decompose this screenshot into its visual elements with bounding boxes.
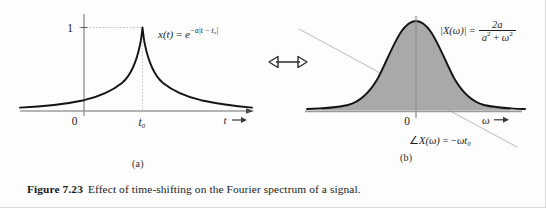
figure-caption-text: Effect of time-shifting on the Fourier s… bbox=[88, 183, 361, 195]
panel-b-x-axis-label: ω bbox=[482, 114, 490, 126]
panel-a-plot: 1 0 t₀ t bbox=[20, 14, 254, 128]
panel-b-origin-label: 0 bbox=[404, 115, 410, 127]
panel-a-origin-label: 0 bbox=[72, 115, 78, 127]
panel-b-denominator-a-exp: 2 bbox=[487, 30, 491, 38]
panel-b-phase-lhs: X(ω) bbox=[419, 135, 440, 146]
panel-b-denominator-omega-exp: 2 bbox=[509, 30, 513, 38]
panel-a-equation: x(t) = e−a|t − t₀| bbox=[158, 27, 218, 40]
figure-caption: Figure 7.23Effect of time-shifting on th… bbox=[27, 183, 361, 195]
panel-b-magnitude-fraction: 2a a2 + ω2 bbox=[479, 19, 516, 43]
panel-a-equation-equals: = bbox=[176, 28, 182, 40]
panel-b-label: (b) bbox=[400, 152, 412, 163]
panel-b-phase-equation: ∠X(ω) = −ωt₀ bbox=[409, 135, 471, 146]
figure-number: Figure 7.23 bbox=[27, 183, 83, 195]
panel-a-peak-label: t₀ bbox=[138, 116, 145, 128]
angle-icon: ∠ bbox=[409, 135, 419, 146]
panel-b-magnitude-denominator: a2 + ω2 bbox=[479, 30, 516, 43]
panel-a-x-label-arrowhead bbox=[241, 117, 247, 123]
panel-a-y-tick-label: 1 bbox=[67, 22, 73, 34]
panel-b-magnitude-equation: |X(ω)| = 2a a2 + ω2 bbox=[440, 20, 517, 44]
panel-b-magnitude-lhs: |X(ω)| bbox=[440, 25, 467, 36]
panel-a-x-axis-arrowhead bbox=[246, 108, 254, 114]
panel-a-equation-exponent: −a|t − t₀| bbox=[190, 26, 218, 35]
panel-b-magnitude-numerator: 2a bbox=[479, 19, 516, 30]
panel-b-denominator-plus: + bbox=[493, 32, 499, 43]
panel-a-equation-lhs: x(t) bbox=[158, 28, 173, 40]
panel-a-label: (a) bbox=[132, 158, 144, 169]
panel-b-phase-equals: = bbox=[442, 135, 448, 146]
equivalence-arrow-icon bbox=[269, 57, 307, 68]
panel-b-magnitude-equals: = bbox=[469, 25, 475, 36]
figure-page: 1 0 t₀ t bbox=[0, 0, 546, 208]
panel-b-x-label-arrowhead bbox=[503, 117, 509, 123]
panel-b-phase-t0: t₀ bbox=[464, 135, 471, 146]
panel-a-x-axis-label: t bbox=[223, 114, 227, 126]
